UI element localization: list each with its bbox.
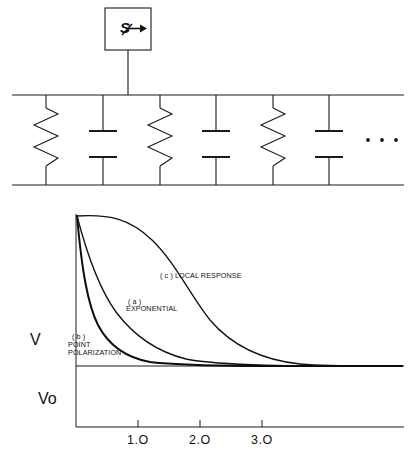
ellipsis-icon — [366, 138, 398, 142]
chart-axes — [76, 214, 404, 427]
branch-capacitor-1 — [89, 95, 117, 185]
figure-svg: S — [0, 0, 416, 451]
x-tick-label-3: 3.O — [251, 433, 273, 447]
source-block: S — [105, 8, 151, 95]
branch-capacitor-2 — [202, 95, 230, 185]
annotation-local-response: ( c ) LOCAL RESPONSE — [160, 271, 242, 280]
x-tick-label-1: 1.O — [127, 433, 149, 447]
branch-capacitor-3 — [315, 95, 343, 185]
branch-resistor-1 — [34, 95, 58, 185]
annotation-exponential: ( a ) EXPONENTIAL — [126, 297, 177, 313]
annotation-exponential-text: EXPONENTIAL — [126, 304, 177, 313]
branch-resistor-2 — [148, 95, 172, 185]
y-axis-label: V — [30, 331, 41, 348]
annotation-local-response-text: ( c ) LOCAL RESPONSE — [160, 271, 242, 280]
annotation-point-polarization-line2: POLARIZATION — [68, 348, 121, 357]
baseline-label-v0: Vo — [38, 390, 57, 407]
figure-container: S — [0, 0, 416, 451]
curve-point-polarization — [77, 216, 402, 366]
curve-exponential — [77, 216, 402, 366]
x-tick-label-2: 2.O — [189, 433, 211, 447]
branch-resistor-3 — [261, 95, 285, 185]
ladder-rails — [12, 95, 404, 185]
curve-local-response — [77, 216, 402, 367]
